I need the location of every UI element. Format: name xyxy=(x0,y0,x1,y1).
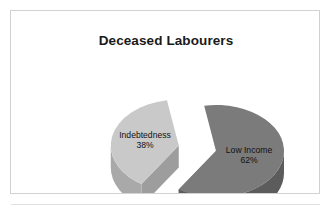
figure-root: Deceased Labourers Indebtedness 38% Low … xyxy=(0,0,330,210)
pie-slice-low-income xyxy=(179,105,284,193)
pie-chart-svg xyxy=(11,51,321,193)
page-divider-rule xyxy=(11,204,320,205)
pie-slice-indebtedness xyxy=(111,100,179,193)
pie-slice-top-face xyxy=(179,105,284,193)
chart-frame: Deceased Labourers Indebtedness 38% Low … xyxy=(10,10,320,194)
pie-chart-plot-area: Indebtedness 38% Low Income 62% xyxy=(11,51,321,193)
chart-title: Deceased Labourers xyxy=(11,33,321,48)
